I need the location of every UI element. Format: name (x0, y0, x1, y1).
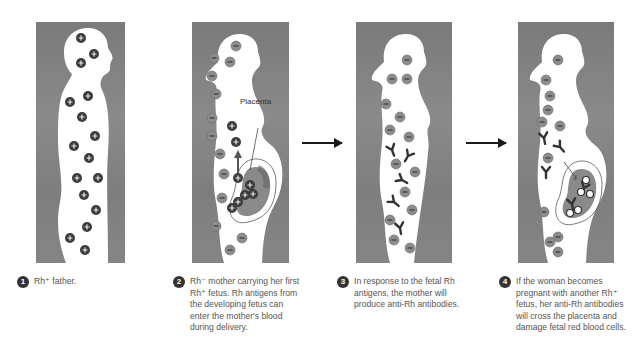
panel-rh-positive-father (36, 22, 125, 263)
panel-mother-antibody-production (356, 22, 452, 263)
female-silhouette (356, 22, 452, 263)
step-number-badge: 4 (499, 276, 511, 288)
step-number-badge: 1 (17, 276, 29, 288)
panel-second-rh-positive-pregnancy (518, 22, 614, 263)
step-arrow-right (466, 142, 506, 144)
caption-text: Rh⁺ father. (34, 276, 164, 288)
caption-text: Rh⁻ mother carrying her first Rh⁺ fetus.… (190, 276, 300, 334)
caption-text: If the woman becomes pregnant with anoth… (516, 276, 634, 334)
pregnant-female-silhouette (192, 22, 289, 263)
step-arrow-right (302, 142, 342, 144)
step-number-badge: 2 (173, 276, 185, 288)
step-number-badge: 3 (337, 276, 349, 288)
panel-rh-negative-mother-first-pregnancy: Placenta (192, 22, 289, 263)
male-silhouette (36, 22, 125, 263)
pregnant-female-silhouette (518, 22, 614, 263)
placenta-label: Placenta (240, 97, 271, 106)
caption-text: In response to the fetal Rh antigens, th… (354, 276, 466, 311)
